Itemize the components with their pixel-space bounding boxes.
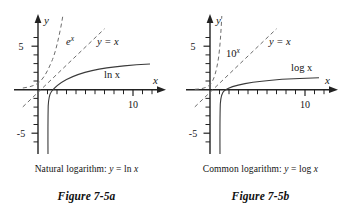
y-axis-group <box>204 14 214 154</box>
plot-area-natural-log: y x 5 -5 10 ex y = x ln x <box>0 2 173 160</box>
x-axis-label: x <box>324 74 330 86</box>
y-tick-label-5: 5 <box>19 41 24 52</box>
x-axis-arrowhead <box>157 86 166 93</box>
x-axis-group <box>186 86 338 96</box>
y-tick-label-5: 5 <box>191 41 196 52</box>
identity-line-label: y = x <box>96 36 119 47</box>
caption-common-log-op: = log <box>289 164 314 174</box>
caption-natural-log-prefix: Natural logarithm: <box>35 164 110 174</box>
y-tick-label-neg5: -5 <box>17 128 25 139</box>
figure-panel-natural-log: y x 5 -5 10 ex y = x ln x Natural logari… <box>0 0 173 222</box>
y-axis-label: y <box>43 14 49 26</box>
exponential-curve-dashed <box>195 16 222 89</box>
plot-area-common-log: y x 5 -5 10 10x y = x log x <box>174 2 347 160</box>
exponential-curve-label: 10x <box>226 46 241 59</box>
figure-pair-container: y x 5 -5 10 ex y = x ln x Natural logari… <box>0 0 347 222</box>
identity-line-label: y = x <box>268 36 291 47</box>
x-axis-label: x <box>152 74 158 86</box>
caption-natural-log-op: = ln <box>114 164 134 174</box>
caption-common-log-prefix: Common logarithm: <box>203 164 284 174</box>
common-log-plot-svg: y x 5 -5 10 10x y = x log x <box>174 2 347 160</box>
exponential-label-exponent: x <box>70 34 75 43</box>
figure-panel-common-log: y x 5 -5 10 10x y = x log x Common logar… <box>174 0 347 222</box>
caption-common-log: Common logarithm: y = log x <box>174 164 347 174</box>
exponential-label-base: 10 <box>226 48 237 59</box>
caption-natural-log-var-x: x <box>134 164 138 174</box>
x-axis-group <box>14 86 166 96</box>
exponential-curve-dashed <box>23 16 63 88</box>
identity-line-dashed <box>195 29 277 107</box>
natural-log-plot-svg: y x 5 -5 10 ex y = x ln x <box>0 2 173 160</box>
x-axis-arrowhead <box>329 86 338 93</box>
y-axis-label: y <box>215 14 221 26</box>
y-tick-label-neg5: -5 <box>189 128 197 139</box>
x-tick-label-10: 10 <box>300 99 310 110</box>
y-axis-arrowhead <box>35 14 42 23</box>
figure-label-7-5b: Figure 7-5b <box>174 190 347 202</box>
svg-text:10x: 10x <box>226 46 241 59</box>
exponential-curve-label: ex <box>66 34 75 47</box>
natural-log-curve-label: ln x <box>104 69 121 80</box>
y-axis-arrowhead <box>207 14 214 23</box>
figure-label-7-5a: Figure 7-5a <box>0 190 173 202</box>
caption-natural-log: Natural logarithm: y = ln x <box>0 164 173 174</box>
identity-line-dashed <box>23 29 105 107</box>
caption-common-log-var-x: x <box>314 164 318 174</box>
exponential-label-exponent: x <box>236 46 241 55</box>
x-tick-label-10: 10 <box>128 99 138 110</box>
svg-text:ex: ex <box>66 34 75 47</box>
common-log-curve-label: log x <box>291 62 313 73</box>
